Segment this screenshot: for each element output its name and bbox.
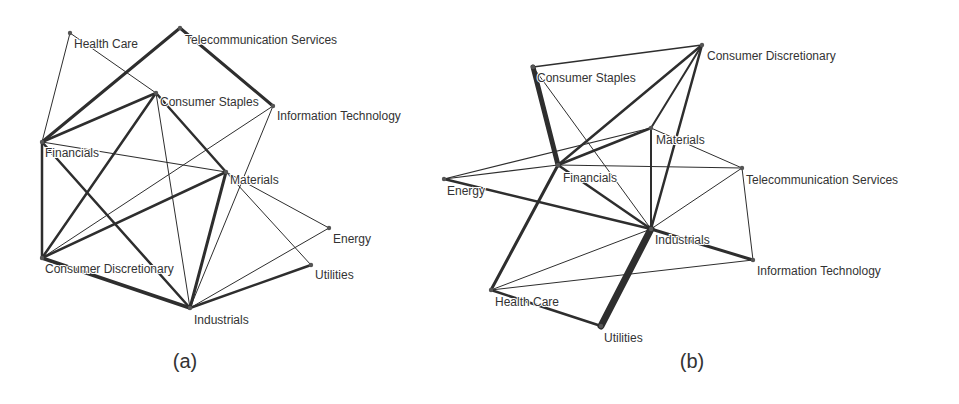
- node-materials: [224, 170, 228, 174]
- node-utilities: [599, 324, 603, 328]
- edge-consumer-staples-consumer-discretionary: [533, 45, 702, 67]
- network-panel-b: Consumer DiscretionaryConsumer StaplesMa…: [442, 43, 898, 372]
- node-label-energy: Energy: [333, 232, 371, 246]
- node-information-technology: [271, 104, 275, 108]
- node-label-consumer-discretionary: Consumer Discretionary: [45, 262, 174, 276]
- node-label-industrials: Industrials: [194, 313, 249, 327]
- edge-materials-energy: [444, 128, 651, 179]
- node-energy: [442, 177, 446, 181]
- node-label-utilities: Utilities: [315, 268, 354, 282]
- node-label-consumer-staples: Consumer Staples: [160, 95, 259, 109]
- node-utilities: [309, 263, 313, 267]
- edge-consumer-discretionary-financials: [558, 45, 702, 165]
- node-industrials: [649, 227, 653, 231]
- node-financials: [556, 163, 560, 167]
- node-consumer-discretionary: [700, 43, 704, 47]
- node-consumer-staples: [154, 91, 158, 95]
- nodes-layer: [442, 43, 755, 328]
- panel-caption-a: (a): [173, 350, 197, 372]
- node-health-care: [489, 288, 493, 292]
- node-label-telecommunication-services: Telecommunication Services: [746, 173, 898, 187]
- node-label-consumer-discretionary: Consumer Discretionary: [707, 49, 836, 63]
- node-label-financials: Financials: [563, 171, 617, 185]
- node-consumer-staples: [531, 65, 535, 69]
- edge-information-technology-industrials: [190, 106, 273, 308]
- node-consumer-discretionary: [40, 256, 44, 260]
- node-materials: [649, 126, 653, 130]
- node-label-information-technology: Information Technology: [757, 264, 881, 278]
- edge-materials-financials: [558, 128, 651, 165]
- node-label-financials: Financials: [45, 146, 99, 160]
- node-label-energy: Energy: [447, 184, 485, 198]
- panel-caption-b: (b): [680, 350, 704, 372]
- edge-materials-industrials: [190, 172, 226, 308]
- edge-financials-health-care: [491, 165, 558, 290]
- node-label-utilities: Utilities: [604, 331, 643, 345]
- network-diagrams: Health CareTelecommunication ServicesCon…: [0, 0, 959, 404]
- node-industrials: [188, 306, 192, 310]
- node-label-industrials: Industrials: [655, 233, 710, 247]
- node-label-telecommunication-services: Telecommunication Services: [185, 33, 337, 47]
- network-panel-a: Health CareTelecommunication ServicesCon…: [40, 26, 401, 372]
- node-label-health-care: Health Care: [74, 37, 138, 51]
- node-label-health-care: Health Care: [495, 295, 559, 309]
- node-telecommunication-services: [740, 166, 744, 170]
- node-health-care: [68, 31, 72, 35]
- node-label-consumer-staples: Consumer Staples: [537, 71, 636, 85]
- node-telecommunication-services: [178, 26, 182, 30]
- edge-consumer-discretionary-materials: [651, 45, 702, 128]
- node-label-information-technology: Information Technology: [277, 109, 401, 123]
- edge-energy-industrials: [190, 228, 329, 308]
- node-energy: [327, 226, 331, 230]
- node-financials: [40, 140, 44, 144]
- edge-financials-energy: [444, 165, 558, 179]
- node-information-technology: [751, 258, 755, 262]
- edge-industrials-utilities: [601, 229, 651, 326]
- edge-utilities-industrials: [190, 265, 311, 308]
- edges-layer: [444, 45, 753, 326]
- node-label-materials: Materials: [230, 173, 279, 187]
- edge-health-care-financials: [42, 33, 70, 142]
- node-label-materials: Materials: [656, 133, 705, 147]
